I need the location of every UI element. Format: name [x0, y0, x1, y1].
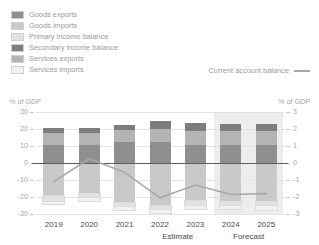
legend-swatch-icon: [11, 66, 24, 74]
left-axis-tick-label: 20: [0, 124, 28, 133]
left-tick-mark: [30, 197, 34, 198]
line-series-legend-swatch: [294, 70, 310, 72]
legend-item: Secondary income balance: [11, 42, 118, 53]
right-tick-mark: [286, 214, 290, 215]
line-series-legend: Current account balance: [208, 66, 310, 75]
left-axis-tick-label: 30: [0, 107, 28, 116]
left-axis-caption: % of GDP: [9, 97, 41, 106]
current-account-balance-line: [36, 112, 284, 214]
right-tick-mark: [286, 197, 290, 198]
left-tick-mark: [30, 146, 34, 147]
right-axis-tick-label: 1: [293, 141, 297, 150]
line-path: [54, 159, 267, 198]
left-tick-mark: [30, 214, 34, 215]
legend-swatch-icon: [11, 22, 24, 30]
x-axis-tick-label: 2020: [69, 220, 109, 229]
chart-root: Goods exportsGoods importsPrimary income…: [0, 0, 319, 245]
legend-item-label: Goods imports: [29, 20, 77, 31]
right-tick-mark: [286, 146, 290, 147]
line-series-legend-label: Current account balance: [208, 66, 289, 75]
right-tick-mark: [286, 129, 290, 130]
left-axis-tick-label: 10: [0, 141, 28, 150]
legend-item: Services exports: [11, 53, 118, 64]
left-tick-mark: [30, 112, 34, 113]
legend-item-label: Secondary income balance: [29, 42, 118, 53]
left-axis-tick-label: -10: [0, 175, 28, 184]
legend-swatch-icon: [11, 55, 24, 63]
left-axis-tick-label: -30: [0, 209, 28, 218]
right-tick-mark: [286, 112, 290, 113]
x-axis-tick-label: 2025: [246, 220, 286, 229]
legend-item-label: Primary income balance: [29, 31, 108, 42]
right-tick-mark: [286, 180, 290, 181]
forecast-annotation: Forecast: [214, 232, 284, 241]
right-axis-caption: % of GDP: [278, 97, 310, 106]
plot-area: 30320210100-10-1-20-2-30-3: [36, 112, 284, 214]
x-axis-tick-label: 2021: [105, 220, 145, 229]
x-axis-tick-label: 2019: [34, 220, 74, 229]
legend-item: Services imports: [11, 64, 118, 75]
legend-swatch-icon: [11, 33, 24, 41]
right-axis-tick-label: 3: [293, 107, 297, 116]
left-axis-tick-label: -20: [0, 192, 28, 201]
legend-swatch-icon: [11, 44, 24, 52]
legend-item: Goods imports: [11, 20, 118, 31]
x-axis-tick-label: 2022: [140, 220, 180, 229]
x-axis-tick-label: 2023: [175, 220, 215, 229]
legend-item: Primary income balance: [11, 31, 118, 42]
legend-item-label: Services imports: [29, 64, 84, 75]
left-tick-mark: [30, 180, 34, 181]
right-axis-tick-label: -1: [293, 175, 299, 184]
right-axis-tick-label: -2: [293, 192, 299, 201]
legend-item-label: Services exports: [29, 53, 84, 64]
x-axis-tick-label: 2024: [211, 220, 251, 229]
left-tick-mark: [30, 129, 34, 130]
legend-item: Goods exports: [11, 9, 118, 20]
right-axis-tick-label: 2: [293, 124, 297, 133]
right-axis-tick-label: -3: [293, 209, 299, 218]
gridline: [36, 214, 284, 215]
legend: Goods exportsGoods importsPrimary income…: [11, 9, 118, 75]
legend-item-label: Goods exports: [29, 9, 77, 20]
legend-swatch-icon: [11, 11, 24, 19]
left-axis-tick-label: 0: [0, 158, 28, 167]
estimate-annotation: Estimate: [143, 232, 213, 241]
right-axis-tick-label: 0: [293, 158, 297, 167]
